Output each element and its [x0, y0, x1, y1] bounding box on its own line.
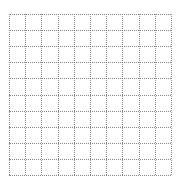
grid-horizontal-line: [9, 127, 171, 128]
grid-horizontal-line: [9, 78, 171, 79]
grid-horizontal-line: [9, 46, 171, 47]
grid-horizontal-line: [9, 111, 171, 112]
grid-horizontal-line: [9, 30, 171, 31]
grid-horizontal-line: [9, 175, 171, 176]
grid-horizontal-line: [9, 14, 171, 15]
grid-horizontal-line: [9, 159, 171, 160]
grid-vertical-line: [171, 14, 172, 175]
grid-horizontal-line: [9, 62, 171, 63]
grid-horizontal-line: [9, 143, 171, 144]
grid-horizontal-line: [9, 95, 171, 96]
dotted-grid: [9, 14, 171, 175]
